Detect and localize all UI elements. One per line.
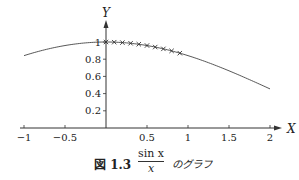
curve-sinx-over-x <box>24 42 270 89</box>
figure-caption: 図 1.3 sin x x のグラフ <box>0 147 299 180</box>
x-tick-label: 1.5 <box>221 132 237 143</box>
y-axis-label: Y <box>102 6 111 20</box>
y-tick-label: 0.4 <box>85 88 101 99</box>
y-tick-label: 1 <box>95 37 101 48</box>
x-tick-label: 0.5 <box>139 132 155 143</box>
y-tick-label: 0.2 <box>85 105 101 116</box>
x-tick-label: −1 <box>17 132 32 143</box>
figure-label: 図 1.3 <box>94 155 131 172</box>
caption-suffix: のグラフ <box>172 156 212 171</box>
x-axis-label: X <box>286 122 296 136</box>
fraction-numerator: sin x <box>138 148 164 160</box>
fraction: sin x x <box>138 148 164 175</box>
x-tick-label: 1 <box>185 132 191 143</box>
fraction-denominator: x <box>138 163 164 175</box>
x-tick-label: −0.5 <box>53 132 77 143</box>
y-tick-label: 0.6 <box>85 71 101 82</box>
chart-plot: XY−1−0.50.511.520.20.40.60.81 <box>0 0 299 150</box>
x-axis-arrow-icon <box>274 126 282 131</box>
y-axis-arrow-icon <box>104 20 109 28</box>
axes <box>20 20 282 131</box>
y-tick-label: 0.8 <box>85 54 101 65</box>
tick-labels: XY−1−0.50.511.520.20.40.60.81 <box>17 6 296 143</box>
x-tick-label: 2 <box>267 132 273 143</box>
